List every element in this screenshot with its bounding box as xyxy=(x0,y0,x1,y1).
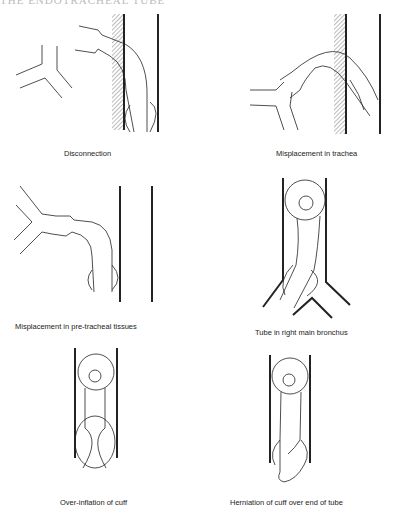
diagram-herniation xyxy=(200,340,396,485)
caption-disconnection: Disconnection xyxy=(64,149,111,158)
caption-herniation: Herniation of cuff over end of tube xyxy=(230,498,343,507)
diagram-disconnection xyxy=(0,10,200,150)
caption-misplacement-pretracheal: Misplacement in pre-tracheal tissues xyxy=(15,322,137,331)
diagram-misplacement-pretracheal xyxy=(0,170,200,310)
page-header: THE ENDOTRACHEAL TUBE xyxy=(0,0,165,6)
caption-right-main-bronchus: Tube in right main bronchus xyxy=(255,328,348,337)
diagram-right-main-bronchus xyxy=(200,170,396,320)
caption-misplacement-trachea: Misplacement in trachea xyxy=(276,149,357,158)
caption-over-inflation: Over-inflation of cuff xyxy=(60,498,127,507)
diagram-over-inflation xyxy=(0,340,200,480)
diagram-misplacement-trachea xyxy=(200,10,396,150)
